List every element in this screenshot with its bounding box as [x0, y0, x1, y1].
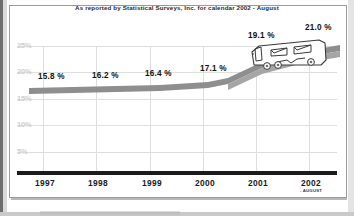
x-axis-tick-label: 1999	[124, 178, 180, 188]
gridline-horizontal	[17, 99, 337, 100]
x-axis-labels: 199719981999200020012002- AUGUST	[17, 178, 337, 198]
x-axis-tick-label: 1997	[17, 178, 73, 188]
x-axis-tick-label: 2000	[177, 178, 233, 188]
rv-motorhome-icon	[247, 38, 329, 80]
data-point-label: 19.1 %	[248, 31, 275, 40]
page-footer-smudge	[40, 211, 180, 216]
y-axis-tick-label: 25%	[17, 41, 41, 50]
chart-title: As reported by Statistical Surveys, Inc.…	[0, 4, 354, 11]
y-axis-tick-label: 10%	[17, 120, 41, 129]
x-axis-line	[17, 171, 337, 175]
x-axis-tick-label: 1998	[70, 178, 126, 188]
data-point-label: 17.1 %	[200, 64, 227, 73]
data-point-label: 21.0 %	[305, 23, 332, 32]
gridline-horizontal	[17, 152, 337, 153]
page-edge-left-light	[3, 0, 7, 216]
gridline-horizontal	[17, 125, 337, 126]
gridline-vertical	[96, 46, 97, 174]
y-axis-tick-label: 15%	[17, 94, 41, 103]
data-point-label: 16.2 %	[92, 71, 119, 80]
page-edge-right-light	[348, 0, 354, 216]
x-axis-tick-label: 2001	[230, 178, 286, 188]
chart-page: As reported by Statistical Surveys, Inc.…	[0, 0, 354, 216]
gridline-vertical	[43, 46, 44, 174]
data-point-label: 16.4 %	[145, 69, 172, 78]
gridline-vertical	[150, 46, 151, 174]
data-point-label: 15.8 %	[38, 72, 65, 81]
y-axis-tick-label: 5%	[17, 147, 41, 156]
x-axis-sub-label: - AUGUST	[283, 188, 339, 193]
x-axis-tick-label: 2002	[283, 178, 339, 188]
